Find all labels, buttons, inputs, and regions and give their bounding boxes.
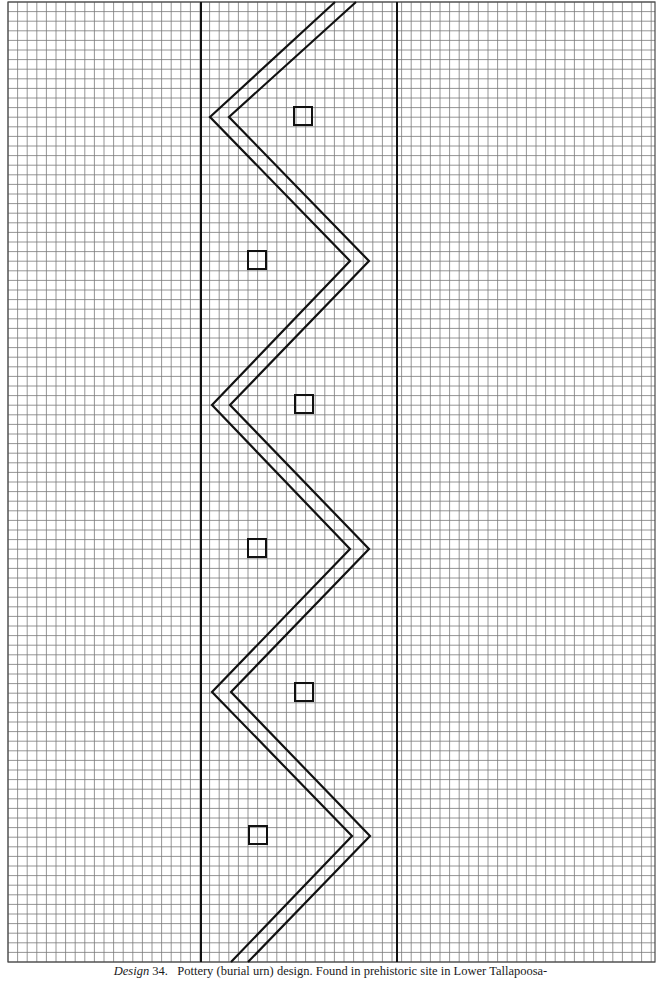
graph-paper-grid — [8, 2, 655, 962]
square-motif — [295, 683, 313, 701]
square-motif — [248, 539, 266, 557]
design-figure — [0, 0, 661, 966]
square-motif — [248, 251, 266, 269]
square-motif — [294, 107, 312, 125]
square-motif — [295, 395, 313, 413]
caption-text: Pottery (burial urn) design. Found in pr… — [177, 964, 547, 978]
caption-number: 34. — [152, 964, 168, 978]
caption-label: Design — [114, 964, 149, 978]
figure-caption: Design 34. Pottery (burial urn) design. … — [0, 964, 661, 979]
